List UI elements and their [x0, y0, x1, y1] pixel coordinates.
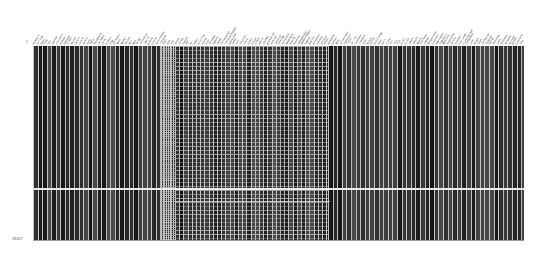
- left-block[interactable]: [33, 46, 161, 240]
- column-grid-lines: [33, 46, 161, 240]
- column-grid-lines: [328, 46, 524, 240]
- secondary-row-highlight: [175, 201, 330, 202]
- grid-baseline: [33, 240, 524, 241]
- divider-band[interactable]: [161, 46, 175, 240]
- middle-block[interactable]: [175, 46, 328, 240]
- right-block[interactable]: [328, 46, 524, 240]
- data-grid[interactable]: [33, 46, 524, 240]
- column-header-band: Sample IDRun DateBatchPlateWellOperatorI…: [0, 0, 553, 46]
- row-grid-lines: [175, 46, 328, 240]
- row-index-tick: 1: [26, 41, 28, 44]
- corner-label: 18207: [12, 238, 23, 242]
- screenshot-root: Sample IDRun DateBatchPlateWellOperatorI…: [0, 0, 553, 262]
- selected-row-highlight[interactable]: [33, 188, 524, 190]
- row-grid-lines: [161, 46, 175, 240]
